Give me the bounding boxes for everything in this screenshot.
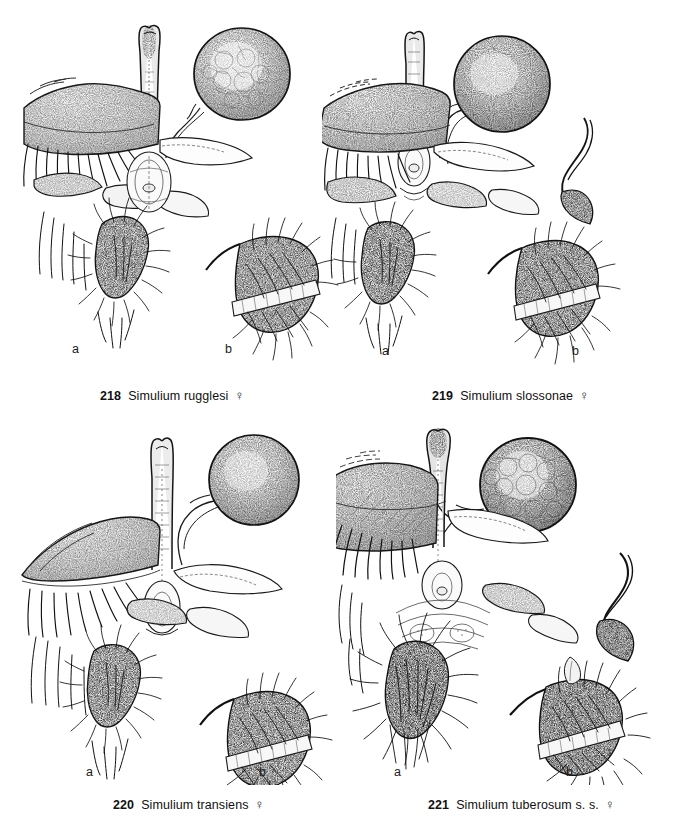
sternite-plates-218 [34,173,209,217]
subpanel-label-218a: a [72,342,79,356]
caption-218-sex-symbol: ♀ [235,388,245,403]
spermatheca-220 [178,435,299,565]
sternite-plates-221 [483,583,578,643]
caption-221-number: 221 [428,798,449,812]
subpanel-label-220a: a [86,765,93,779]
hook-structure-219 [561,118,593,224]
cercus-b-221 [510,657,650,785]
cercus-a-219 [334,202,436,330]
caption-221-sex-symbol: ♀ [605,797,615,812]
figure-221-drawing [336,425,686,785]
sternite-plates-220 [127,599,248,638]
caption-220-sex-symbol: ♀ [255,797,265,812]
cercus-a-221 [350,613,478,769]
subpanel-label-220b: b [259,765,266,779]
caption-221-name: Simulium tuberosum s. s. [456,798,599,812]
cercus-a-220 [60,625,162,753]
caption-218: 218Simulium rugglesi♀ [100,388,244,403]
figure-panel-219: a b [322,22,672,372]
figure-panel-218: a b [10,12,340,372]
figure-panel-220: a b [14,425,354,785]
genital-membrane-221 [396,561,490,649]
sternite-plates-219 [327,177,539,214]
caption-220-number: 220 [113,798,134,812]
caption-219-number: 219 [432,389,453,403]
caption-221: 221Simulium tuberosum s. s.♀ [428,797,615,812]
illustration-plate: a b 218Simulium rugglesi♀ [0,0,692,837]
figure-218-drawing [10,12,340,372]
genital-opening-218 [127,152,171,212]
caption-219-sex-symbol: ♀ [579,388,589,403]
figure-220-drawing [14,425,354,785]
caption-219: 219Simulium slossonae♀ [432,388,589,403]
subpanel-label-219a: a [382,344,389,358]
subpanel-label-221b: b [566,765,573,779]
cercus-b-219 [488,222,620,364]
caption-220: 220Simulium transiens♀ [113,797,264,812]
cercus-a-218 [68,198,170,326]
caption-219-name: Simulium slossonae [460,389,573,403]
caption-218-name: Simulium rugglesi [128,389,228,403]
caption-220-name: Simulium transiens [141,798,248,812]
figure-219-drawing [322,22,672,372]
subpanel-label-219b: b [572,344,579,358]
ventral-bristles-221 [339,585,364,693]
cercus-b-218 [206,218,338,360]
cercus-b-220 [200,673,332,785]
figure-panel-221: a b [336,425,686,785]
subpanel-label-218b: b [225,342,232,356]
abdominal-segment-220 [22,517,282,594]
subpanel-label-221a: a [394,765,401,779]
caption-218-number: 218 [100,389,121,403]
hook-structure-221 [597,553,634,661]
